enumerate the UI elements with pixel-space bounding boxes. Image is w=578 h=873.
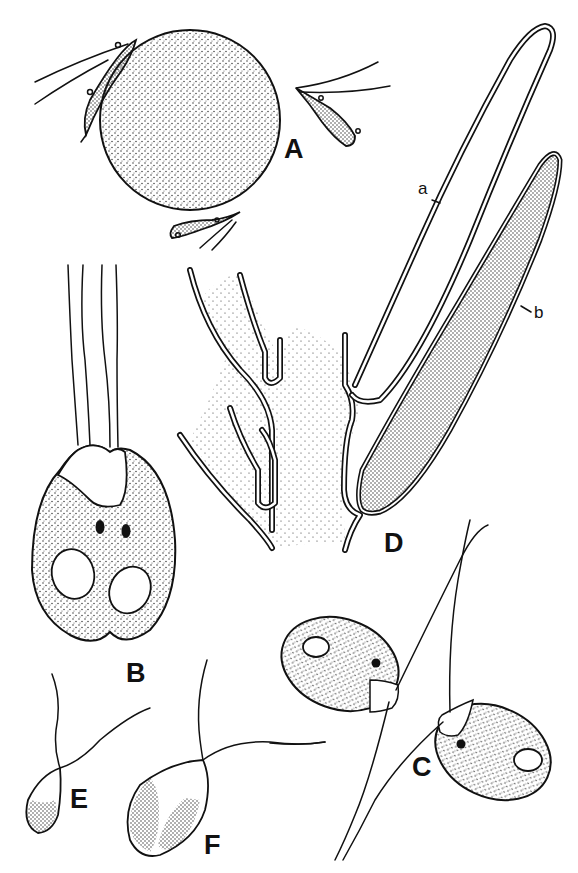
zoospore-right (296, 88, 355, 146)
part-label-a: a (418, 180, 427, 197)
sporangium-b (359, 154, 561, 514)
panel-label-f: F (204, 832, 221, 859)
part-label-b: b (534, 304, 543, 321)
panel-label-b: B (126, 660, 146, 687)
panel-label-d: D (384, 530, 404, 557)
panel-c-drawing (268, 520, 566, 860)
cell-c-lower (420, 686, 567, 818)
panel-b-drawing (32, 265, 175, 641)
panel-label-c: C (412, 754, 432, 781)
panel-f-drawing (128, 660, 325, 856)
illustration (0, 0, 578, 873)
panel-label-a: A (284, 136, 304, 163)
panel-label-e: E (70, 786, 88, 813)
panel-a-drawing (35, 30, 390, 250)
